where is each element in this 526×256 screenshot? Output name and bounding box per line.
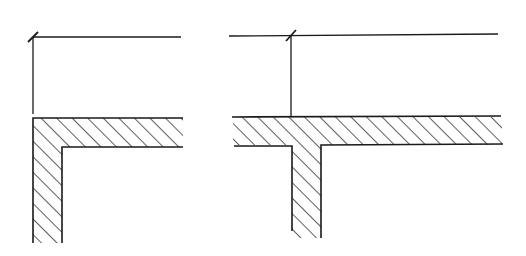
t-wall-top-edge [232,116,501,117]
drawing-canvas [0,0,526,256]
corner-junction-diagram [28,32,183,243]
wall-junction-drawing [0,0,526,256]
t-wall-bottom-right-edge [321,144,503,238]
t-wall-bottom-left-edge [234,146,292,231]
l-wall-outline-inner [62,147,183,243]
l-wall-hatch [33,118,183,243]
dimension-line [229,34,498,36]
t-wall-hatch [233,117,502,238]
tee-junction-diagram [229,30,503,238]
